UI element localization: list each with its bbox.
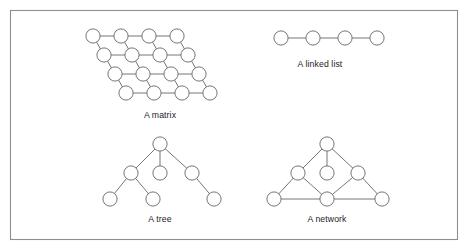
- graph-node: [375, 192, 389, 206]
- graph-node: [119, 86, 133, 100]
- graph-node: [146, 192, 160, 206]
- graph-node: [320, 137, 334, 151]
- caption-matrix: A matrix: [144, 110, 177, 120]
- graph-node: [192, 67, 206, 81]
- graph-node: [267, 192, 281, 206]
- graph-node: [153, 166, 167, 180]
- diagram-canvas: A matrixA linked listA treeA network: [0, 0, 468, 251]
- graph-node: [203, 86, 217, 100]
- graph-node: [291, 166, 305, 180]
- graph-node: [207, 192, 221, 206]
- graph-node: [153, 137, 167, 151]
- graph-node: [181, 48, 195, 62]
- graph-node: [370, 31, 384, 45]
- graph-node: [142, 29, 156, 43]
- graph-node: [351, 166, 365, 180]
- graph-node: [153, 48, 167, 62]
- graph-node: [147, 86, 161, 100]
- graph-node: [114, 29, 128, 43]
- graph-node: [164, 67, 178, 81]
- graph-node: [338, 31, 352, 45]
- graph-node: [306, 31, 320, 45]
- graph-node: [103, 192, 117, 206]
- graph-node: [274, 31, 288, 45]
- caption-linked-list: A linked list: [298, 59, 343, 69]
- graph-node: [185, 166, 199, 180]
- graph-node: [175, 86, 189, 100]
- graph-node: [97, 48, 111, 62]
- graph-node: [170, 29, 184, 43]
- graph-node: [124, 166, 138, 180]
- graph-node: [86, 29, 100, 43]
- graph-node: [320, 192, 334, 206]
- graph-node: [136, 67, 150, 81]
- graph-node: [108, 67, 122, 81]
- graph-node: [125, 48, 139, 62]
- caption-network: A network: [307, 214, 347, 224]
- caption-tree: A tree: [148, 214, 171, 224]
- figure-border-frame: [11, 11, 458, 240]
- figure-root: A matrixA linked listA treeA network: [0, 0, 468, 251]
- graph-node: [320, 166, 334, 180]
